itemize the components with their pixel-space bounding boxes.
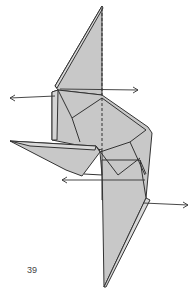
origami-diagram bbox=[0, 0, 190, 292]
arrow-right-lower-icon bbox=[143, 202, 188, 208]
lower-spike bbox=[102, 160, 146, 287]
step-number: 39 bbox=[27, 265, 37, 275]
left-flap-strip bbox=[52, 90, 58, 140]
paper-model bbox=[10, 6, 152, 287]
arrow-left-upper-icon bbox=[10, 95, 55, 101]
crease-8 bbox=[84, 174, 102, 175]
